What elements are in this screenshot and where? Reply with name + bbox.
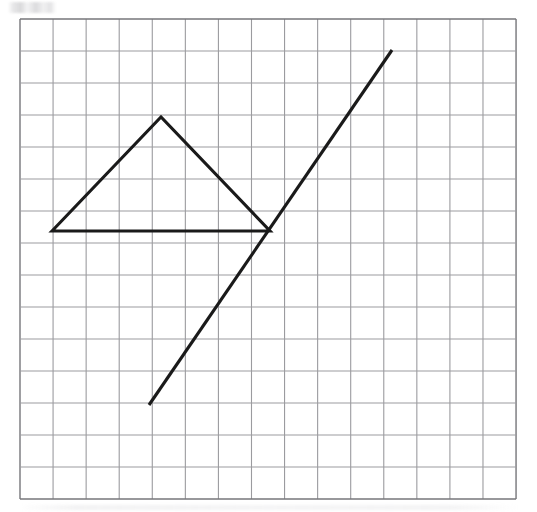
graph-paper-grid: [20, 19, 516, 499]
drawn-shapes-group: [52, 50, 392, 405]
geometry-figure-svg: Geometric figure drawn on graph paper: [0, 0, 537, 512]
figure-canvas: Geometric figure drawn on graph paper: [0, 0, 537, 512]
triangle: [52, 117, 270, 231]
